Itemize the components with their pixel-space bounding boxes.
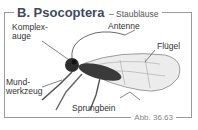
- label-antenna: Antenne: [108, 22, 140, 31]
- label-jumping-leg: Sprungbein: [72, 104, 115, 113]
- label-compound-eye: Komplex- auge: [12, 23, 48, 41]
- figure-caption: Abb. 36.63: [131, 112, 176, 124]
- label-wing: Flügel: [157, 42, 180, 51]
- label-mouthparts: Mund- werkzeug: [6, 78, 42, 96]
